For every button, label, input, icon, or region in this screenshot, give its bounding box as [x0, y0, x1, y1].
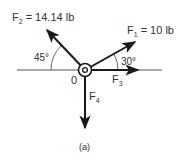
- force-diagram: F2= 14.14 lb F1= 10 lb 45° 30° 0 F3 F4 (…: [0, 0, 186, 159]
- force-f4-label: F4: [89, 90, 100, 104]
- force-f2-label: F2= 14.14 lb: [12, 11, 74, 25]
- angle-arc-f2: [51, 46, 61, 70]
- figure-caption: (a): [79, 142, 90, 152]
- origin-ring-inner: [83, 68, 88, 73]
- angle-label-45: 45°: [34, 52, 49, 63]
- angle-label-30: 30°: [121, 56, 136, 67]
- force-f2-arrow: [47, 30, 85, 70]
- force-f3-label: F3: [112, 73, 123, 87]
- origin-label: 0: [71, 74, 77, 86]
- angle-arc-f1: [114, 54, 118, 70]
- force-f1-label: F1= 10 lb: [127, 24, 174, 38]
